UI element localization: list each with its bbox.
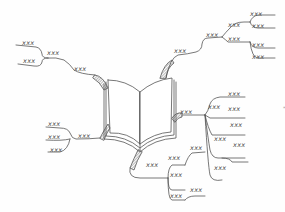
node-label: xxx xyxy=(48,121,60,128)
node-label: xxx xyxy=(214,136,226,143)
node-label: xxx xyxy=(208,104,220,111)
node-label: xxx xyxy=(23,58,35,65)
node-label: xxx xyxy=(180,109,192,116)
node-label: xxx xyxy=(74,66,86,73)
node-label: xxx xyxy=(174,48,186,55)
node-label: xxx xyxy=(228,106,240,113)
node-label: xxx xyxy=(190,145,202,152)
node-label: xxx xyxy=(252,54,264,61)
node-label: xxx xyxy=(206,32,218,39)
node-label: xxx xyxy=(214,165,226,172)
node-label: xxx xyxy=(190,187,202,194)
node-label: xxx xyxy=(170,193,182,200)
open-book-icon xyxy=(104,78,176,152)
mind-map-lines xyxy=(0,0,285,212)
node-label: xxx xyxy=(233,142,245,149)
mind-map-canvas: xxx xxx xxx xxx xxx xxx xxx xxx xxx xxx … xyxy=(0,0,285,212)
node-label: xxx xyxy=(250,11,262,18)
stray-mark: * xyxy=(283,105,285,111)
node-label: xxx xyxy=(50,147,62,154)
node-label: xxx xyxy=(47,50,59,57)
node-label: xxx xyxy=(252,23,264,30)
node-label: xxx xyxy=(170,172,182,179)
node-label: xxx xyxy=(252,42,264,49)
node-label: xxx xyxy=(22,40,34,47)
node-label: xxx xyxy=(228,91,240,98)
node-label: xxx xyxy=(228,36,240,43)
node-label: xxx xyxy=(230,122,242,129)
node-label: xxx xyxy=(228,22,240,29)
node-label: xxx xyxy=(48,134,60,141)
node-label: xxx xyxy=(146,162,158,169)
node-label: xxx xyxy=(78,133,90,140)
node-label: xxx xyxy=(168,155,180,162)
